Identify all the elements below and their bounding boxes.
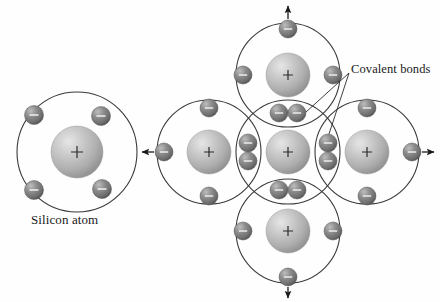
left-atom-electron-top-right <box>92 107 111 126</box>
covalent-bond-bottom-pair <box>270 181 306 199</box>
covalent-bond-right-pair <box>319 134 337 170</box>
top-atom-top-electron <box>279 20 297 38</box>
bottom-atom-right-electron <box>324 222 342 240</box>
right-atom-nucleus <box>345 130 389 174</box>
bottom-atom-bottom-electron <box>279 268 297 286</box>
left-atom-left-electron <box>155 143 173 161</box>
covalent-bond-left-pair <box>239 134 257 170</box>
right-atom-top-electron <box>358 99 376 117</box>
left-atom-top-electron <box>200 99 218 117</box>
covalent-bond-top-pair <box>270 104 306 122</box>
top-atom-nucleus <box>266 53 310 97</box>
figure-root: Silicon atom Covalent bonds <box>0 0 440 302</box>
center-atom-nucleus <box>266 130 310 174</box>
top-atom-left-electron <box>234 66 252 84</box>
left-atom-electron-bottom-right <box>93 180 112 199</box>
bottom-atom-nucleus <box>266 209 310 253</box>
left-atom-electron-bottom-left <box>25 181 44 200</box>
silicon-atom-label: Silicon atom <box>31 212 98 228</box>
right-atom-right-electron <box>403 143 421 161</box>
left-atom-electron-top-left <box>25 106 44 125</box>
bottom-atom-left-electron <box>234 222 252 240</box>
left-atom-nucleus <box>187 130 231 174</box>
silicon-covalent-bond-diagram <box>0 0 440 302</box>
left-silicon-atom <box>17 92 137 212</box>
left-atom-bottom-electron <box>200 187 218 205</box>
right-atom-bottom-electron <box>358 187 376 205</box>
left-atom-nucleus <box>51 126 103 178</box>
covalent-bonds-label: Covalent bonds <box>351 62 431 77</box>
